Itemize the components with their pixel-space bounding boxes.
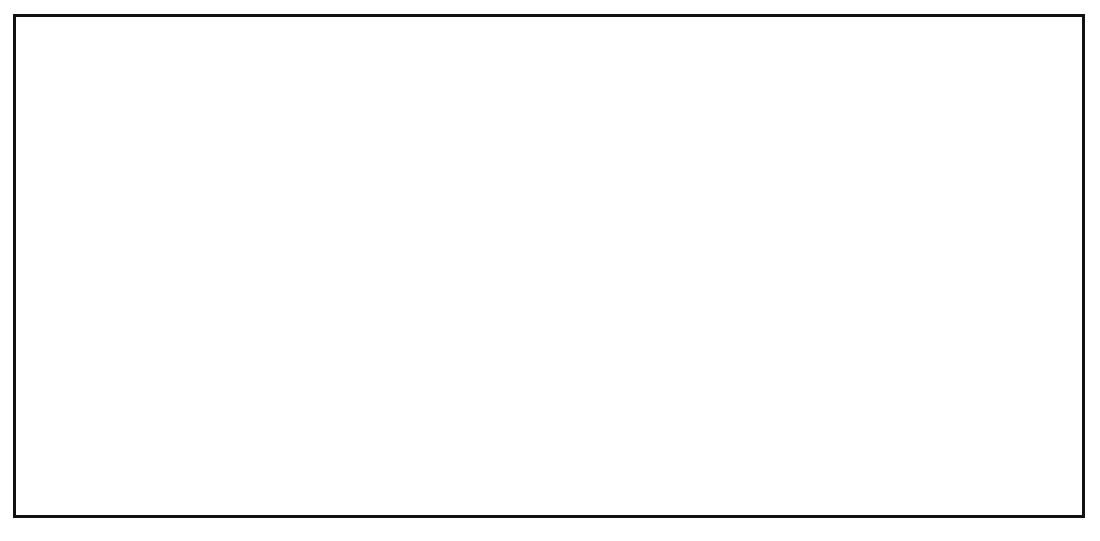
chart-panel-left [16, 17, 564, 515]
figure-frame [13, 14, 1085, 518]
chart-panel-right [564, 17, 1082, 515]
